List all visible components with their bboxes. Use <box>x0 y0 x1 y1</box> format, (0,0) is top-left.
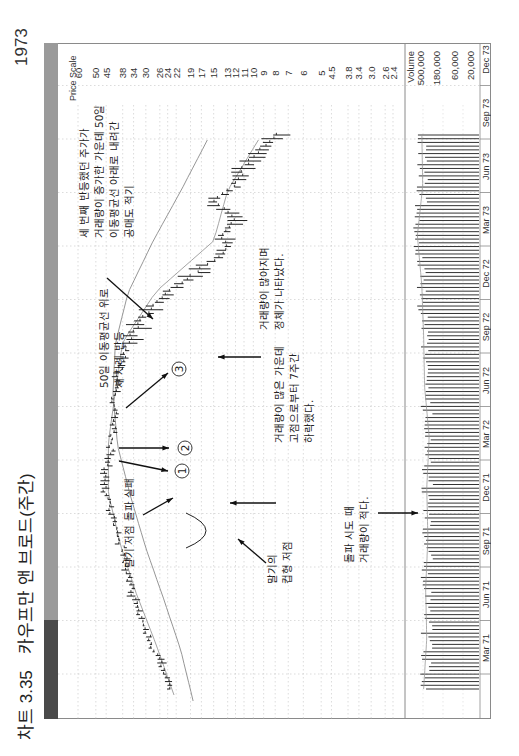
svg-text:3.4: 3.4 <box>353 66 364 79</box>
volume-scale: Volume500,000180,00060,00020,000 <box>405 51 476 85</box>
svg-text:3.0: 3.0 <box>366 66 377 79</box>
svg-text:하락했다.: 하락했다. <box>303 400 315 443</box>
svg-text:3.8: 3.8 <box>343 66 354 79</box>
svg-text:이동평균선 아래로 내려간: 이동평균선 아래로 내려간 <box>108 121 120 238</box>
svg-text:2: 2 <box>179 445 191 452</box>
svg-text:고점으로부터 7주간: 고점으로부터 7주간 <box>288 353 300 443</box>
svg-text:Dec 73: Dec 73 <box>481 45 491 74</box>
svg-text:컵형 저점: 컵형 저점 <box>281 541 293 584</box>
svg-text:Sep 71: Sep 71 <box>481 527 491 556</box>
svg-text:Mar 72: Mar 72 <box>481 420 491 448</box>
svg-text:말기 저점 돌파 실패: 말기 저점 돌파 실패 <box>123 478 135 568</box>
chart-title-text: 카우프만 앤 브로드(주간) <box>17 473 36 654</box>
annotations: 세 번째 반등했던 주가가거래량이 증가한 가운데 50일이동평균선 아래로 내… <box>78 105 418 584</box>
svg-text:60,000: 60,000 <box>449 51 460 80</box>
svg-text:7: 7 <box>283 70 294 75</box>
svg-text:거래량이 증가한 가운데 50일: 거래량이 증가한 가운데 50일 <box>93 105 105 238</box>
svg-text:세 차례 반등: 세 차례 반등 <box>113 331 125 388</box>
year-label: 1973 <box>12 28 32 66</box>
svg-text:4.5: 4.5 <box>326 66 337 79</box>
svg-text:30: 30 <box>140 68 151 79</box>
svg-text:거래량이 많은 가운데: 거래량이 많은 가운데 <box>273 346 285 443</box>
svg-text:6: 6 <box>298 70 309 75</box>
svg-text:20,000: 20,000 <box>465 51 476 80</box>
time-axis: Mar 71Jun 71Sep 71Dec 71Mar 72Jun 72Sep … <box>481 45 491 662</box>
svg-text:거래량이 많아지며: 거래량이 많아지며 <box>258 247 270 330</box>
price-scale: Price Scale60504538343026242219171513121… <box>68 55 399 101</box>
svg-text:공매도 적기: 공매도 적기 <box>123 185 135 238</box>
svg-text:정체가 나타났다.: 정체가 나타났다. <box>273 253 285 330</box>
figure-number: 차트 3.35 <box>17 670 36 740</box>
price-volume-chart: Price Scale60504538343026242219171513121… <box>58 43 491 719</box>
chart-title: 차트 3.35카우프만 앤 브로드(주간) <box>12 473 37 740</box>
svg-text:3: 3 <box>173 366 185 373</box>
svg-text:Mar 71: Mar 71 <box>481 634 491 662</box>
svg-text:45: 45 <box>101 68 112 79</box>
svg-text:8: 8 <box>270 70 281 75</box>
title-stripe-light <box>44 43 58 621</box>
svg-text:38: 38 <box>117 68 128 79</box>
svg-text:Mar 73: Mar 73 <box>481 206 491 234</box>
svg-text:1: 1 <box>176 468 188 475</box>
svg-text:Jun 71: Jun 71 <box>481 581 491 608</box>
svg-text:세 번째 반등했던 주가가: 세 번째 반등했던 주가가 <box>78 128 90 238</box>
svg-text:500,000: 500,000 <box>415 51 426 85</box>
svg-text:22: 22 <box>171 68 182 79</box>
svg-text:Sep 73: Sep 73 <box>481 99 491 128</box>
svg-text:17: 17 <box>196 68 207 79</box>
svg-text:2.4: 2.4 <box>388 66 399 79</box>
svg-text:Jun 73: Jun 73 <box>481 153 491 180</box>
title-stripe-dark <box>44 620 58 719</box>
svg-text:Dec 72: Dec 72 <box>481 259 491 288</box>
svg-text:180,000: 180,000 <box>431 51 442 85</box>
svg-text:Dec 71: Dec 71 <box>481 473 491 502</box>
svg-text:거래량이 적다.: 거래량이 적다. <box>358 496 370 563</box>
svg-text:34: 34 <box>128 68 139 79</box>
svg-text:돌파 시도 때: 돌파 시도 때 <box>343 506 355 563</box>
svg-text:Jun 72: Jun 72 <box>481 367 491 394</box>
svg-text:9: 9 <box>258 70 269 75</box>
svg-text:50일 이동평균선 위로: 50일 이동평균선 위로 <box>98 288 110 388</box>
svg-text:말기의: 말기의 <box>266 554 278 584</box>
svg-text:19: 19 <box>185 68 196 79</box>
svg-text:Sep 72: Sep 72 <box>481 313 491 342</box>
svg-text:60: 60 <box>73 68 84 79</box>
svg-text:15: 15 <box>208 68 219 79</box>
